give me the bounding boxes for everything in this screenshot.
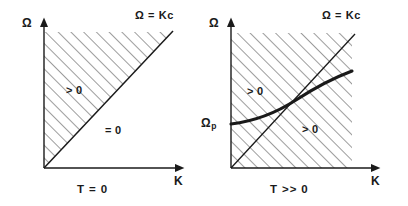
right-panel-graphics (231, 26, 372, 168)
left-line-label: Ω = Kc (135, 10, 174, 21)
right-panel-caption: T >> 0 (270, 184, 309, 196)
left-y-axis-label: Ω (22, 17, 32, 29)
plasma-frequency-base: Ω (201, 116, 211, 130)
right-x-axis-label: K (371, 175, 380, 187)
figure-canvas (0, 0, 408, 206)
right-region-upper-label: > 0 (247, 86, 263, 97)
left-x-axis-label: K (174, 175, 183, 187)
left-region-below-label: = 0 (105, 125, 121, 136)
left-region-above-label: > 0 (66, 85, 82, 96)
plasma-frequency-subscript: p (211, 121, 216, 131)
dispersion-figure: Ω K Ω = Kc > 0 = 0 T = 0 Ω K Ω = Kc Ωp >… (0, 0, 408, 206)
right-line-label: Ω = Kc (322, 10, 361, 21)
left-panel-caption: T = 0 (77, 184, 108, 196)
left-panel-graphics (44, 26, 176, 168)
right-region-lower-label: > 0 (302, 124, 318, 135)
plasma-frequency-label: Ωp (201, 117, 216, 131)
right-y-axis-label: Ω (209, 17, 219, 29)
